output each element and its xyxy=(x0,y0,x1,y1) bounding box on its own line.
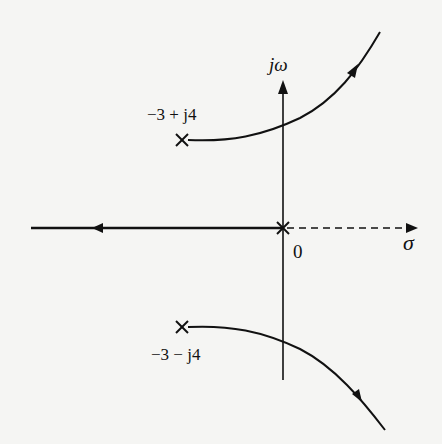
imaginary-axis-arrow-icon xyxy=(278,80,288,94)
pole-upper-label: −3 + j4 xyxy=(147,106,196,123)
root-locus-plot xyxy=(0,0,442,444)
origin-label: 0 xyxy=(293,242,303,261)
imaginary-axis-label: jω xyxy=(269,55,288,74)
upper-branch-arrow-icon xyxy=(347,64,358,78)
pole-lower-label: −3 − j4 xyxy=(151,346,200,363)
pole-upper-icon xyxy=(176,134,188,146)
real-axis-label: σ xyxy=(403,232,414,254)
root-locus-diagram: jω σ 0 −3 + j4 −3 − j4 xyxy=(0,0,442,444)
pole-lower-icon xyxy=(176,321,188,333)
real-axis-branch-arrow-icon xyxy=(92,223,103,233)
lower-branch xyxy=(188,327,385,430)
